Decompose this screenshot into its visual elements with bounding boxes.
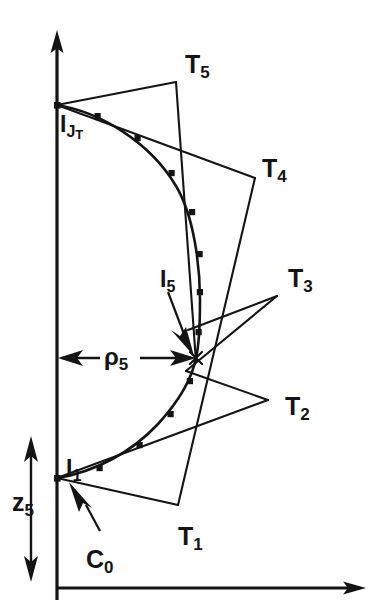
curve-point-marker — [135, 135, 141, 141]
segment-ijt-to-t5 — [57, 82, 176, 105]
label-t5-base: T — [185, 50, 200, 78]
curve-point-marker — [169, 170, 175, 176]
label-rho5-subscript: 5 — [119, 355, 128, 374]
i5-leader-arrow — [168, 292, 194, 356]
label-ijt-subsubscript: T — [75, 127, 83, 142]
label-c0: C0 — [86, 547, 114, 576]
curve-endpoint-marker-top — [54, 102, 61, 109]
label-c0-subscript: 0 — [104, 558, 113, 577]
curve-point-marker — [189, 209, 195, 215]
label-rho5-base: ρ — [104, 343, 119, 370]
label-t1: T1 — [178, 524, 203, 553]
i5-leader-shaft — [168, 292, 184, 334]
curve-point-marker — [187, 378, 193, 384]
label-ijt: IJT — [60, 113, 83, 141]
curve-point-marker — [137, 442, 143, 448]
label-z5-base: z — [12, 488, 25, 516]
spline-curve-group — [57, 105, 200, 478]
curve-point-marker — [196, 329, 202, 335]
label-t4-base: T — [262, 154, 277, 182]
label-t3-subscript: 3 — [303, 277, 312, 296]
curve-point-marker — [97, 465, 103, 471]
label-i1: I1 — [66, 457, 81, 484]
label-z5-subscript: 5 — [25, 501, 34, 520]
label-c0-base: C — [86, 545, 104, 573]
label-ijt-subscript: J — [66, 123, 75, 140]
label-t4: T4 — [262, 156, 287, 185]
label-i5: I5 — [160, 268, 175, 295]
label-t4-subscript: 4 — [277, 167, 286, 186]
figure-canvas: T5 T4 T3 T2 T1 IJT I1 I5 C0 ρ5 z5 — [0, 0, 382, 616]
curve-point-marker — [197, 251, 203, 257]
label-t1-subscript: 1 — [193, 535, 202, 554]
segment-to-t2 — [186, 371, 268, 400]
curve-endpoint-marker-bottom — [54, 475, 61, 482]
spline-curve — [57, 105, 200, 478]
label-t3-base: T — [288, 264, 303, 292]
curve-point-marker — [168, 411, 174, 417]
curve-point-marker — [95, 113, 101, 119]
label-t2-subscript: 2 — [300, 405, 309, 424]
c0-leader-shaft — [86, 505, 100, 531]
label-t2-base: T — [285, 392, 300, 420]
label-t1-base: T — [178, 522, 193, 550]
segment-ijt-to-t4 — [57, 105, 255, 178]
label-rho5: ρ5 — [104, 345, 128, 373]
label-t3: T3 — [288, 266, 313, 295]
c0-leader-arrow — [69, 482, 100, 531]
label-z5: z5 — [12, 490, 34, 519]
label-t5: T5 — [185, 52, 210, 81]
label-t5-subscript: 5 — [200, 63, 209, 82]
label-i5-subscript: 5 — [166, 278, 175, 295]
segment-to-t3-upper — [188, 296, 277, 330]
segment-t2-to-i1 — [57, 400, 268, 478]
label-i1-subscript: 1 — [72, 467, 81, 484]
curve-point-marker — [197, 289, 203, 295]
label-t2: T2 — [285, 394, 310, 423]
